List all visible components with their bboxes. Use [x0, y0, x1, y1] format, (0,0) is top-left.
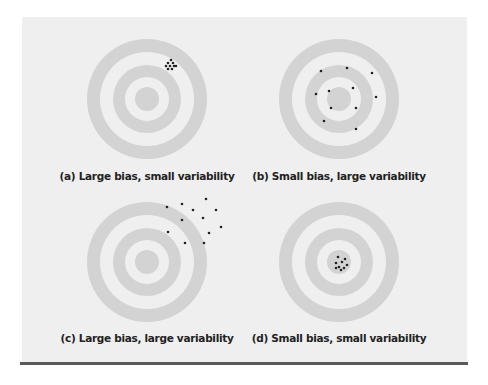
shot-dot — [346, 67, 349, 70]
shot-dot — [171, 68, 174, 71]
shot-dot — [341, 261, 344, 264]
shot-dot — [355, 107, 358, 110]
shot-dot — [328, 90, 331, 93]
targets-canvas — [0, 0, 488, 385]
shot-dot — [184, 242, 187, 245]
shot-dot — [181, 203, 184, 206]
caption-a: (a) Large bias, small variability — [60, 170, 235, 182]
shot-dot — [335, 262, 338, 265]
shot-dot — [323, 120, 326, 123]
shot-dot — [167, 62, 170, 65]
shot-dot — [203, 242, 206, 245]
shot-dot — [167, 231, 170, 234]
shot-dot — [315, 93, 318, 96]
shot-dot — [167, 68, 170, 71]
shot-dot — [166, 206, 169, 209]
shot-dot — [346, 264, 349, 267]
target-ring — [327, 250, 351, 274]
target-d — [279, 202, 399, 322]
target-ring — [135, 250, 159, 274]
shot-dot — [344, 258, 347, 261]
shot-dot — [165, 65, 168, 68]
shot-dot — [337, 256, 340, 259]
caption-c: (c) Large bias, large variability — [60, 332, 233, 344]
shot-dot — [208, 232, 211, 235]
shot-dot — [343, 267, 346, 270]
shot-dot — [340, 269, 343, 272]
target-a — [87, 39, 207, 159]
shot-dot — [352, 87, 355, 90]
shot-dot — [170, 59, 173, 62]
shot-dot — [181, 219, 184, 222]
shot-dot — [205, 198, 208, 201]
target-ring — [135, 87, 159, 111]
target-c — [87, 198, 222, 322]
shot-dot — [371, 72, 374, 75]
shot-dot — [375, 96, 378, 99]
target-b — [279, 39, 399, 159]
shot-dot — [192, 209, 195, 212]
shot-dot — [215, 209, 218, 212]
shot-dot — [169, 65, 172, 68]
shot-dot — [338, 266, 341, 269]
bottom-rule — [20, 362, 468, 365]
shot-dot — [335, 267, 338, 270]
caption-d: (d) Small bias, small variability — [252, 332, 427, 344]
shot-dot — [330, 107, 333, 110]
caption-b: (b) Small bias, large variability — [252, 170, 426, 182]
shot-dot — [175, 65, 178, 68]
shot-dot — [202, 217, 205, 220]
shot-dot — [220, 226, 223, 229]
shot-dot — [320, 70, 323, 73]
shot-dot — [172, 62, 175, 65]
shot-dot — [355, 128, 358, 131]
